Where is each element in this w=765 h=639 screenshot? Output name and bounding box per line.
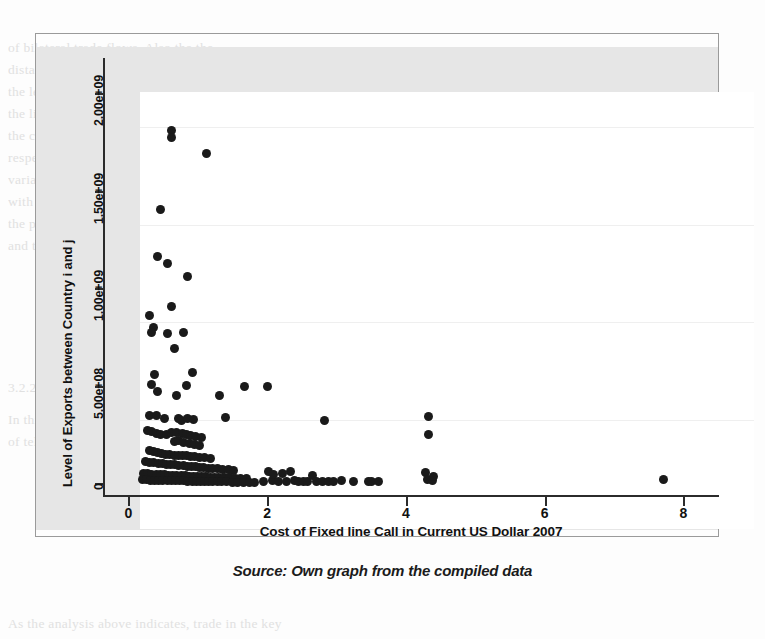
graph-outer-frame	[35, 33, 719, 537]
x-axis-tick-label: 2	[252, 505, 282, 521]
scatter-point	[163, 329, 172, 338]
scatter-point	[147, 328, 156, 337]
x-axis-tick-label: 8	[668, 505, 698, 521]
y-axis-tick-label: 1.00e+09	[92, 270, 106, 321]
scatter-point	[188, 368, 197, 377]
scatter-point	[153, 387, 162, 396]
background-text-line: As the analysis above indicates, trade i…	[8, 616, 282, 632]
scatter-point	[250, 478, 259, 487]
scatter-point	[263, 382, 272, 391]
x-axis-tick-label: 4	[391, 505, 421, 521]
scatter-point	[167, 133, 176, 142]
y-axis-title: Level of Exports between Country i and j	[60, 240, 75, 487]
gridline-horizontal	[140, 420, 754, 421]
scatter-point	[429, 472, 438, 481]
gridline-horizontal	[140, 127, 754, 128]
x-axis-tick-label: 6	[530, 505, 560, 521]
scatter-plot-area	[140, 92, 754, 529]
x-axis-title: Cost of Fixed line Call in Current US Do…	[104, 524, 718, 539]
scatter-point	[163, 259, 172, 268]
scatter-point	[167, 302, 176, 311]
y-axis-tick-label: 2.00e+09	[92, 75, 106, 126]
y-axis-tick-label: 5.00e+08	[92, 368, 106, 419]
x-axis-tick-label: 0	[113, 505, 143, 521]
source-caption: Source: Own graph from the compiled data	[0, 562, 765, 579]
y-axis-tick-label: 1.50e+09	[92, 173, 106, 224]
scatter-point	[259, 477, 268, 486]
scatter-point	[374, 477, 383, 486]
scatter-point	[172, 391, 181, 400]
scatter-point	[195, 441, 204, 450]
x-axis-line	[103, 495, 719, 497]
scatter-point	[349, 477, 358, 486]
y-axis-tick-label: 0	[92, 484, 106, 491]
scatter-point	[179, 328, 188, 337]
gridline-horizontal	[140, 225, 754, 226]
scatter-point	[170, 344, 179, 353]
scatter-point	[659, 475, 668, 484]
gridline-horizontal	[140, 322, 754, 323]
scatter-point	[150, 370, 159, 379]
scatter-point	[145, 311, 154, 320]
